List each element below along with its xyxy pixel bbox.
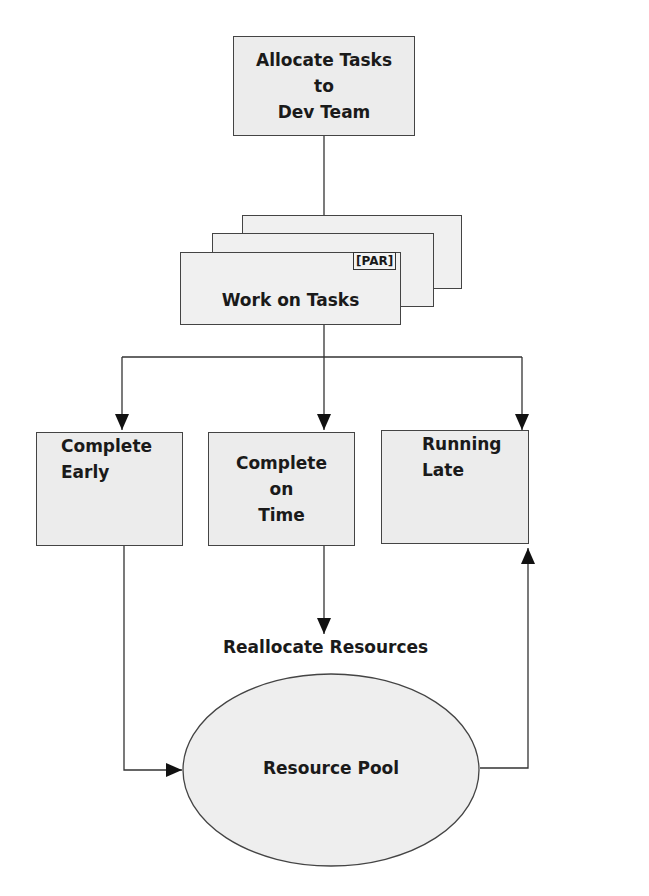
node-allocate-tasks: Allocate Tasks to Dev Team <box>233 36 415 136</box>
node-early-line2: Early <box>61 459 109 485</box>
node-early-line1: Complete <box>61 433 152 459</box>
node-work-label: Work on Tasks <box>222 287 360 313</box>
node-allocate-line2: to <box>314 73 334 99</box>
node-ontime-line1: Complete <box>236 450 327 476</box>
node-late-line1: Running <box>422 431 502 457</box>
node-allocate-line1: Allocate Tasks <box>256 47 392 73</box>
node-complete-early: Complete Early <box>36 432 183 546</box>
node-ontime-line3: Time <box>258 502 305 528</box>
node-ontime-line2: on <box>270 476 294 502</box>
edge-label-reallocate-resources: Reallocate Resources <box>223 637 428 657</box>
node-running-late: Running Late <box>381 430 529 544</box>
node-allocate-line3: Dev Team <box>278 99 371 125</box>
par-badge: [PAR] <box>353 252 396 270</box>
node-late-line2: Late <box>422 457 464 483</box>
node-resource-pool-label: Resource Pool <box>263 758 399 778</box>
node-complete-on-time: Complete on Time <box>208 432 355 546</box>
